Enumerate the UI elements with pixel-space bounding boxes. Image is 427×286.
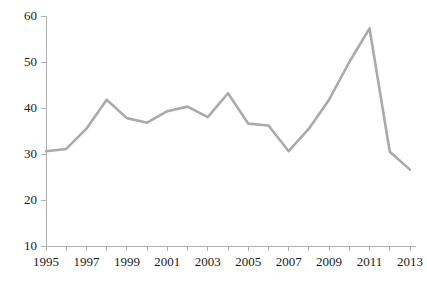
y-axis-tick-label: 10 [8, 239, 37, 252]
line-chart: 102030405060 199519971999200120032005200… [0, 0, 427, 286]
x-axis-tick-label: 1997 [64, 255, 108, 268]
data-series-line [46, 28, 410, 169]
x-axis-tick-label: 2007 [267, 255, 311, 268]
y-axis-tick-label: 40 [8, 101, 37, 114]
y-axis-tick-label: 30 [8, 147, 37, 160]
x-axis-tick-label: 2013 [388, 255, 427, 268]
y-axis-tick-label: 60 [8, 9, 37, 22]
y-axis-tick-label: 50 [8, 55, 37, 68]
y-axis-tick-label: 20 [8, 193, 37, 206]
x-axis-tick-label: 1995 [24, 255, 68, 268]
x-axis-tick-label: 2009 [307, 255, 351, 268]
chart-plot-area [0, 0, 427, 286]
x-axis-tick-label: 2001 [145, 255, 189, 268]
data-series-layer [46, 28, 410, 169]
axis-lines [46, 16, 416, 246]
x-axis-tick-label: 1999 [105, 255, 149, 268]
x-axis-tick-label: 2005 [226, 255, 270, 268]
x-axis-tick-label: 2011 [348, 255, 392, 268]
x-axis-tick-label: 2003 [186, 255, 230, 268]
